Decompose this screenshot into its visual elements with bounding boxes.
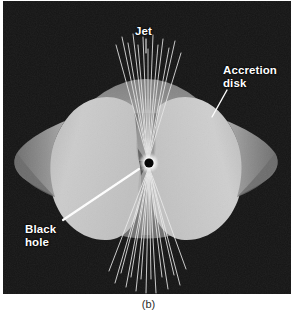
black-hole-illustration — [3, 1, 291, 294]
figure-root: Jet Accretion disk Black hole (b) — [0, 0, 297, 314]
illustration-panel: Jet Accretion disk Black hole — [3, 1, 291, 294]
label-black-hole: Black hole — [25, 223, 56, 248]
label-jet: Jet — [135, 25, 152, 38]
figure-caption: (b) — [0, 298, 297, 311]
label-accretion-disk: Accretion disk — [223, 64, 277, 89]
grain-overlay — [3, 1, 291, 294]
